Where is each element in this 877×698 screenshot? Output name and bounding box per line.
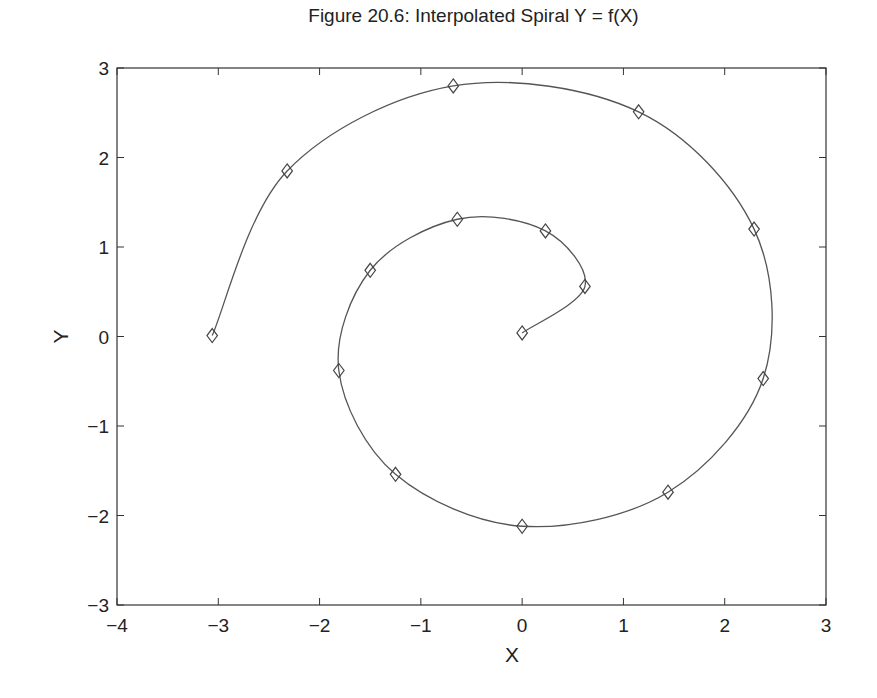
x-tick-label: −3	[207, 615, 229, 636]
x-tick-label: 1	[618, 615, 629, 636]
y-axis-label: Y	[49, 329, 72, 343]
spiral-chart: −4−3−2−10123−3−2−10123XY	[0, 0, 877, 698]
x-tick-label: 0	[517, 615, 528, 636]
y-tick-label: −3	[87, 595, 109, 616]
y-tick-label: 3	[98, 58, 109, 79]
y-tick-label: 0	[98, 327, 109, 348]
y-tick-label: −2	[87, 506, 109, 527]
y-tick-label: −1	[87, 416, 109, 437]
x-tick-label: −4	[106, 615, 128, 636]
plot-frame	[117, 68, 826, 605]
x-tick-label: 2	[719, 615, 730, 636]
y-tick-label: 1	[98, 237, 109, 258]
x-tick-label: 3	[821, 615, 832, 636]
x-tick-label: −2	[309, 615, 331, 636]
x-tick-label: −1	[410, 615, 432, 636]
y-tick-label: 2	[98, 148, 109, 169]
x-axis-label: X	[505, 643, 519, 666]
spiral-curve	[212, 82, 772, 526]
